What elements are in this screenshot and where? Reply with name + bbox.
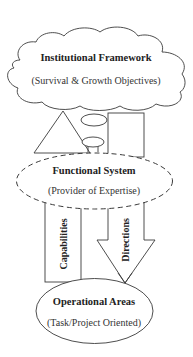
functional-subtitle: (Provider of Expertise) bbox=[48, 185, 140, 197]
institutional-title: Institutional Framework bbox=[40, 52, 151, 63]
abstract-shapes-group bbox=[34, 111, 144, 157]
operational-ellipse-shape bbox=[36, 279, 153, 344]
cylinder-bottom-ellipse bbox=[82, 137, 104, 147]
cylinder-top-ellipse bbox=[81, 114, 107, 126]
cloud-shape bbox=[8, 27, 185, 110]
organization-diagram: Institutional Framework (Survival & Grow… bbox=[0, 0, 193, 357]
capabilities-flow: Capabilities bbox=[45, 198, 81, 282]
functional-title: Functional System bbox=[52, 165, 135, 176]
functional-system-ellipse: Functional System (Provider of Expertise… bbox=[17, 153, 173, 209]
rectangle-shape bbox=[108, 113, 144, 157]
institutional-framework-cloud: Institutional Framework (Survival & Grow… bbox=[8, 27, 185, 110]
triangle-shape bbox=[34, 111, 90, 153]
institutional-subtitle: (Survival & Growth Objectives) bbox=[31, 75, 160, 87]
operational-subtitle: (Task/Project Oriented) bbox=[47, 317, 141, 329]
operational-areas-ellipse: Operational Areas (Task/Project Oriented… bbox=[36, 279, 153, 344]
operational-title: Operational Areas bbox=[53, 296, 135, 307]
directions-label: Directions bbox=[120, 218, 131, 262]
capabilities-label: Capabilities bbox=[58, 218, 69, 269]
functional-ellipse-shape bbox=[17, 153, 173, 209]
directions-arrow: Directions bbox=[97, 198, 155, 283]
